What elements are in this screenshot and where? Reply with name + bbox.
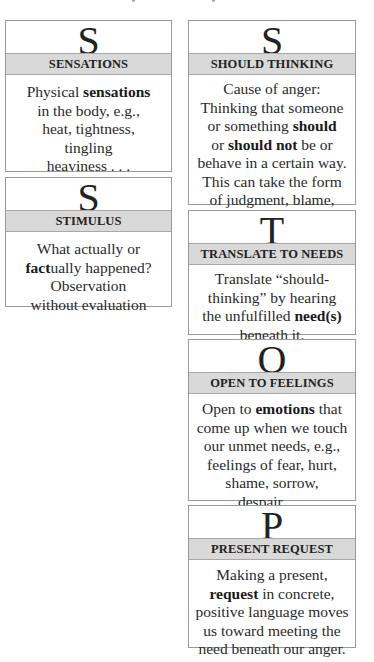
card-description: What actually orfactually happened?Obser… [6,232,171,314]
description-line: heat, tightness, [10,120,167,139]
text-run: ually happened? [50,259,151,276]
description-line: need beneath our anger. [193,640,351,659]
card-title: PRESENT REQUEST [189,538,355,560]
card-letter: P [189,506,355,538]
card-title: STIMULUS [6,210,171,232]
text-run: us toward meeting the [203,622,340,639]
card-description: Translate “should-thinking” by hearingth… [189,265,355,344]
text-run: This can take the form [202,173,341,190]
card-letter: S [189,21,355,53]
clipped-heading-fragment [120,0,260,3]
card-open-to-feelings: O OPEN TO FEELINGS Open to emotions that… [188,339,356,501]
text-run: or [211,136,228,153]
text-run: need beneath our anger. [198,640,345,657]
card-description: Making a present,request in concrete,pos… [189,560,355,659]
description-line: without evaluation [10,296,167,315]
emphasized-text: fact [25,259,50,276]
description-line: come up when we touch [193,419,351,438]
text-run: Open to [202,400,255,417]
text-run: Making a present, [216,566,327,583]
emphasized-text: should not [228,136,297,153]
card-stimulus: S STIMULUS What actually orfactually hap… [5,177,172,307]
text-run: our unmet needs, e.g., [204,437,340,454]
text-run: of judgment, blame, [210,191,335,208]
description-line: tingling [10,139,167,158]
description-line: or should not be or [193,136,351,155]
card-letter: S [6,21,171,53]
text-run: Observation [51,277,127,294]
description-line: Making a present, [193,566,351,585]
text-run: What actually or [37,240,140,257]
description-line: of judgment, blame, [193,191,351,210]
card-present-request: P PRESENT REQUEST Making a present,reque… [188,505,356,648]
description-line: factually happened? [10,259,167,278]
description-line: shame, sorrow, [193,474,351,493]
card-title: SENSATIONS [6,53,171,75]
description-line: Open to emotions that [193,400,351,419]
text-run: feelings of fear, hurt, [207,456,337,473]
text-run: Translate “should- [215,270,329,287]
description-line: us toward meeting the [193,622,351,641]
description-line: Cause of anger: [193,80,351,99]
description-line: Translate “should- [193,270,351,289]
card-title: OPEN TO FEELINGS [189,372,355,394]
card-title: SHOULD THINKING [189,53,355,75]
text-run: the unfulfilled [202,307,294,324]
text-run: without evaluation [31,296,147,313]
description-line: the unfulfilled need(s) [193,307,351,326]
text-run: in concrete, [258,585,334,602]
description-line: request in concrete, [193,585,351,604]
text-run: positive language moves [195,603,348,620]
description-line: behave in a certain way. [193,154,351,173]
description-line: our unmet needs, e.g., [193,437,351,456]
card-title: TRANSLATE TO NEEDS [189,243,355,265]
description-line: in the body, e.g., [10,102,167,121]
text-run: behave in a certain way. [197,154,346,171]
text-run: Cause of anger: [223,80,320,97]
description-line: What actually or [10,240,167,259]
description-line: or something should [193,117,351,136]
emphasized-text: need(s) [294,307,341,324]
text-run: shame, sorrow, [225,474,318,491]
text-run: that [315,400,342,417]
emphasized-text: should [293,117,337,134]
description-line: positive language moves [193,603,351,622]
card-description: Open to emotions thatcome up when we tou… [189,394,355,511]
text-run: tingling [64,139,112,156]
description-line: Physical sensations [10,83,167,102]
text-run: come up when we touch [197,419,348,436]
text-run: in the body, e.g., [37,102,140,119]
card-description: Physical sensationsin the body, e.g.,hea… [6,75,171,176]
description-line: This can take the form [193,173,351,192]
card-sensations: S SENSATIONS Physical sensationsin the b… [5,20,172,172]
text-run: Thinking that someone [201,99,344,116]
card-description: Cause of anger:Thinking that someoneor s… [189,75,355,228]
card-should-thinking: S SHOULD THINKING Cause of anger:Thinkin… [188,20,356,205]
description-line: thinking” by hearing [193,289,351,308]
emphasized-text: sensations [83,83,150,100]
card-translate-to-needs: T TRANSLATE TO NEEDS Translate “should-t… [188,210,356,335]
card-letter: S [6,178,171,210]
text-run: thinking” by hearing [208,289,336,306]
description-line: feelings of fear, hurt, [193,456,351,475]
text-run: or something [207,117,292,134]
emphasized-text: emotions [255,400,314,417]
card-letter: O [189,340,355,372]
text-run: be or [297,136,332,153]
description-line: Observation [10,277,167,296]
emphasized-text: request [210,585,259,602]
description-line: heaviness . . . [10,157,167,176]
card-letter: T [189,211,355,243]
text-run: heaviness . . . [47,157,131,174]
description-line: Thinking that someone [193,99,351,118]
text-run: Physical [27,83,83,100]
text-run: heat, tightness, [42,120,135,137]
